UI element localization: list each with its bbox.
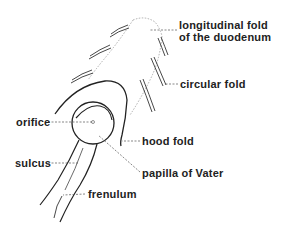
inner-arc	[76, 106, 112, 120]
label-orifice: orifice	[16, 116, 50, 128]
fold-marks-left	[71, 25, 129, 83]
frenulum-branch	[54, 196, 62, 218]
label-hood-fold: hood fold	[142, 135, 194, 147]
label-longitudinal-fold: longitudinal fold of the duodenum	[179, 19, 271, 43]
hood-fold-curve	[55, 81, 127, 146]
label-frenulum: frenulum	[88, 188, 137, 200]
papilla-circle	[72, 102, 114, 144]
label-longitudinal-fold-line1: longitudinal fold	[179, 19, 271, 31]
fold-marks-right	[140, 37, 168, 112]
label-papilla-of-vater: papilla of Vater	[142, 167, 223, 179]
label-sulcus: sulcus	[15, 157, 51, 169]
longitudinal-fold-right-outline	[130, 36, 162, 115]
label-circular-fold: circular fold	[180, 78, 246, 90]
label-longitudinal-fold-line2: of the duodenum	[179, 31, 271, 43]
longitudinal-fold-outline	[133, 18, 162, 36]
frenulum-right-edge	[60, 144, 97, 222]
